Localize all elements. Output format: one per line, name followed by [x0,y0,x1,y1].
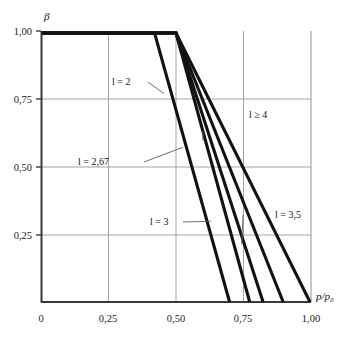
x-axis-title: p/p₀ [315,290,334,302]
y-tick-label-0.75: 0,75 [14,94,32,105]
series-label-l-2: l = 2 [112,76,130,87]
y-tick-label-1.00: 1,00 [14,26,32,37]
series-label-l-2-67: l = 2,67 [78,156,109,167]
x-tick-label-0: 0 [38,313,43,324]
x-tick-label-0.25: 0,25 [99,313,117,324]
y-axis-ticks [36,31,41,235]
series-label-l-3: l = 3 [150,216,168,227]
beta-vs-pressure-ratio-chart: β p/p₀ 1,00 0,75 0,50 0,25 0 0,25 0,50 0… [0,0,351,340]
y-tick-label-0.25: 0,25 [14,230,32,241]
figure-container: β p/p₀ 1,00 0,75 0,50 0,25 0 0,25 0,50 0… [0,0,351,340]
x-tick-label-1.00: 1,00 [302,313,320,324]
y-tick-label-0.50: 0,50 [14,162,32,173]
x-tick-label-0.50: 0,50 [167,313,185,324]
series-label-l-3-5: l = 3,5 [275,209,301,220]
x-tick-label-0.75: 0,75 [234,313,252,324]
y-axis-title: β [43,10,50,22]
series-label-l-ge-4: l ≥ 4 [249,109,267,120]
